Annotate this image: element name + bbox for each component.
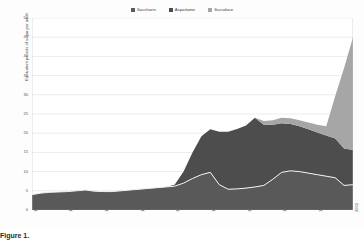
legend-item-aspartame[interactable]: Aspartame — [169, 7, 195, 12]
legend-label-saccharin: Saccharin — [137, 7, 156, 12]
legend-swatch-aspartame — [169, 8, 173, 12]
caption-text: Figure 1. — [0, 232, 29, 239]
legend-item-sucralose[interactable]: Sucralose — [208, 7, 233, 12]
legend-swatch-saccharin — [131, 8, 135, 12]
y-tick-label: 5 — [12, 189, 28, 193]
figure-caption: Figure 1. — [0, 229, 364, 243]
legend-item-saccharin[interactable]: Saccharin — [131, 7, 156, 12]
y-tick-label: 25 — [12, 112, 28, 116]
y-tick-label: 0 — [12, 208, 28, 212]
legend-swatch-sucralose — [208, 8, 212, 12]
y-tick-label: 50 — [12, 16, 28, 20]
y-tick-label: 40 — [12, 54, 28, 58]
y-tick-label: 15 — [12, 150, 28, 154]
y-tick-label: 35 — [12, 74, 28, 78]
stacked-area-chart — [32, 18, 353, 210]
x-tick-label: 2002 — [355, 203, 359, 212]
y-tick-label: 10 — [12, 170, 28, 174]
legend-label-sucralose: Sucralose — [214, 7, 233, 12]
y-tick-label: 30 — [12, 93, 28, 97]
y-tick-label: 45 — [12, 35, 28, 39]
chart-container: Saccharin Aspartame Sucralose Equivalent… — [0, 0, 364, 228]
chart-legend: Saccharin Aspartame Sucralose — [0, 4, 364, 15]
plot-area — [32, 18, 353, 210]
legend-label-aspartame: Aspartame — [175, 7, 195, 12]
y-tick-label: 20 — [12, 131, 28, 135]
